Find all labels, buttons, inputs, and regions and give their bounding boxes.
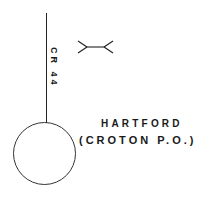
road-label-text: CR 44 [49, 47, 59, 88]
place-name: HARTFORD [101, 118, 183, 129]
road-label: CR 44 [49, 47, 59, 88]
road-line [46, 13, 47, 123]
bridge-icon [77, 39, 115, 55]
town-marker-circle [13, 122, 76, 185]
place-subtitle: (CROTON P.O.) [79, 134, 196, 146]
